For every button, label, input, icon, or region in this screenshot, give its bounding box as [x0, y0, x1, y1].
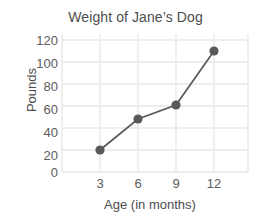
series-line [100, 51, 214, 150]
data-point [209, 46, 218, 55]
plot-area [0, 0, 271, 221]
line-chart: Weight of Jane’s Dog Pounds Age (in mont… [0, 0, 271, 221]
data-point [95, 145, 104, 154]
grid-lines [62, 34, 248, 172]
data-point [133, 114, 142, 123]
data-point [171, 100, 180, 109]
